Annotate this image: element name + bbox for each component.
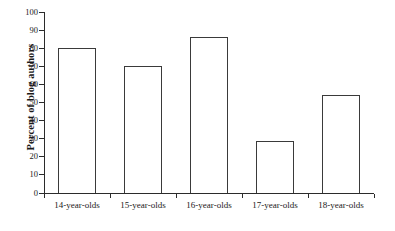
x-axis-line [44,193,374,194]
y-axis-tick-label: 90 [12,26,38,35]
bar [124,66,162,193]
bar [190,37,228,193]
y-axis-line [44,12,45,194]
y-axis-tick-label: 50 [12,98,38,107]
x-axis-tick [308,194,309,198]
y-axis-tick [39,174,44,175]
y-axis-tick-label: 80 [12,44,38,53]
y-axis-tick-label: 100 [12,8,38,17]
x-axis-category-label: 18-year-olds [308,200,374,211]
y-axis-tick-label: 60 [12,80,38,89]
y-axis-tick [39,102,44,103]
y-axis-tick [39,84,44,85]
y-axis-tick [39,120,44,121]
y-axis-tick-label: 20 [12,152,38,161]
y-axis-tick [39,12,44,13]
x-axis-tick [176,194,177,198]
y-axis-tick [39,138,44,139]
x-axis-category-label: 14-year-olds [44,200,110,211]
y-axis-tick [39,156,44,157]
x-axis-tick [44,194,45,198]
x-axis-category-label: 15-year-olds [110,200,176,211]
y-axis-tick [39,30,44,31]
bar [256,141,294,193]
bar [322,95,360,193]
x-axis-tick [374,194,375,198]
y-axis-tick-label: 70 [12,62,38,71]
y-axis-tick-label: 30 [12,134,38,143]
x-axis-tick [242,194,243,198]
y-axis-tick-label: 0 [12,189,38,198]
y-axis-tick [39,48,44,49]
x-axis-tick [110,194,111,198]
bar [58,48,96,193]
x-axis-category-label: 17-year-olds [242,200,308,211]
y-axis-tick-label: 40 [12,116,38,125]
x-axis-category-label: 16-year-olds [176,200,242,211]
bar-chart: Percent of blog authors 0102030405060708… [0,0,395,231]
y-axis-tick-label: 10 [12,170,38,179]
y-axis-tick [39,66,44,67]
